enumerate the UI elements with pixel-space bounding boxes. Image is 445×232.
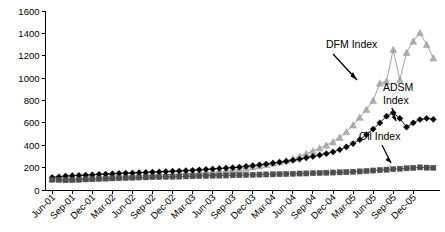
data-point <box>343 144 349 150</box>
data-point <box>163 168 169 174</box>
data-point <box>123 175 128 180</box>
data-point <box>397 166 402 171</box>
data-point <box>270 172 275 177</box>
data-point <box>190 167 196 173</box>
data-point <box>324 170 329 175</box>
data-point <box>103 176 108 181</box>
data-point <box>310 153 316 159</box>
data-point <box>410 120 416 126</box>
data-point <box>76 177 81 182</box>
data-point <box>404 166 409 171</box>
data-point <box>430 55 437 61</box>
data-point <box>203 166 209 172</box>
data-point <box>96 176 101 181</box>
data-point <box>277 172 282 177</box>
y-tick-label: 400 <box>24 140 40 151</box>
data-point <box>90 177 95 182</box>
annotation-oil-label: Oil Index <box>359 130 401 142</box>
chart-canvas: 02004006008001000120014001600Jun-01Sep-0… <box>0 0 445 232</box>
data-point <box>364 168 369 173</box>
data-point <box>310 147 317 153</box>
data-point <box>210 166 216 172</box>
data-point <box>317 152 323 158</box>
data-point <box>330 149 336 155</box>
data-point <box>190 174 195 179</box>
data-point <box>344 170 349 175</box>
data-point <box>150 175 155 180</box>
y-tick-label: 0 <box>34 185 39 196</box>
data-point <box>317 170 322 175</box>
data-point <box>196 167 202 173</box>
annotation-adsm-label-line1: ADSM <box>383 81 413 93</box>
data-point <box>417 116 423 122</box>
data-point <box>156 169 162 175</box>
y-tick-label: 1600 <box>18 6 39 17</box>
data-point <box>110 176 115 181</box>
annotation-dfm-index: DFM Index <box>326 38 378 80</box>
y-tick-label: 200 <box>24 162 40 173</box>
data-point <box>143 175 148 180</box>
data-point <box>290 171 295 176</box>
annotation-adsm-arrowhead <box>392 116 397 122</box>
data-point <box>116 176 121 181</box>
data-point <box>370 97 377 103</box>
y-tick-label: 1400 <box>18 28 39 39</box>
data-point <box>431 165 436 170</box>
data-point <box>337 170 342 175</box>
data-point <box>83 177 88 182</box>
index-comparison-chart: 02004006008001000120014001600Jun-01Sep-0… <box>0 0 445 232</box>
data-point <box>63 178 68 183</box>
data-point <box>323 151 329 157</box>
data-point <box>297 171 302 176</box>
annotation-oil-index: Oil Index <box>359 130 401 163</box>
y-tick-label: 1000 <box>18 73 39 84</box>
data-point <box>417 29 424 35</box>
data-point <box>323 142 330 148</box>
data-point <box>377 167 382 172</box>
data-point <box>237 173 242 178</box>
data-point <box>177 174 182 179</box>
data-point <box>350 169 355 174</box>
data-point <box>170 174 175 179</box>
data-point <box>217 173 222 178</box>
y-tick-label: 1200 <box>18 50 39 61</box>
data-point <box>183 174 188 179</box>
data-point <box>417 165 422 170</box>
data-point <box>203 173 208 178</box>
data-point <box>183 168 189 174</box>
data-point <box>230 173 235 178</box>
data-point <box>223 173 228 178</box>
data-point <box>330 138 337 144</box>
data-point <box>430 116 436 122</box>
y-tick-label: 600 <box>24 117 40 128</box>
data-point <box>56 177 61 182</box>
data-point <box>424 165 429 170</box>
data-point <box>157 174 162 179</box>
data-point <box>330 170 335 175</box>
series-dfm-index <box>49 29 437 182</box>
data-point <box>216 165 222 171</box>
annotation-dfm-label: DFM Index <box>326 38 378 50</box>
series-line <box>52 33 433 179</box>
data-point <box>403 49 410 55</box>
y-tick-label: 800 <box>24 95 40 106</box>
data-point <box>384 167 389 172</box>
data-point <box>350 140 356 146</box>
data-point <box>250 172 255 177</box>
data-point <box>264 172 269 177</box>
data-point <box>210 173 215 178</box>
data-point <box>149 169 155 175</box>
data-point <box>357 169 362 174</box>
data-point <box>50 177 55 182</box>
data-point <box>424 115 430 121</box>
data-point <box>197 173 202 178</box>
data-point <box>411 165 416 170</box>
data-point <box>130 175 135 180</box>
data-point <box>243 172 248 177</box>
data-point <box>137 175 142 180</box>
data-point <box>284 171 289 176</box>
data-point <box>316 145 323 151</box>
data-point <box>423 41 430 47</box>
series-line <box>52 113 433 178</box>
data-point <box>169 168 175 174</box>
